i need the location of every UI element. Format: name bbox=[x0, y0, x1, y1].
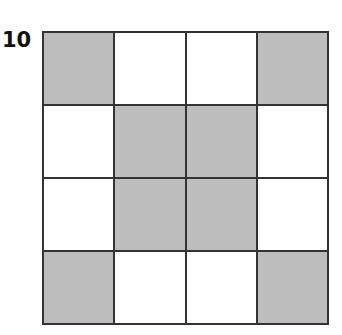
empty-cell-r3-c2 bbox=[186, 251, 257, 324]
empty-cell-r2-c3 bbox=[257, 178, 328, 251]
shaded-grid bbox=[42, 31, 329, 325]
shaded-cell-r1-c2 bbox=[186, 105, 257, 178]
empty-cell-r0-c2 bbox=[186, 32, 257, 105]
shaded-cell-r2-c1 bbox=[114, 178, 185, 251]
shaded-cell-r1-c1 bbox=[114, 105, 185, 178]
figure-label: 10 bbox=[2, 28, 31, 52]
empty-cell-r2-c0 bbox=[43, 178, 114, 251]
empty-cell-r3-c1 bbox=[114, 251, 185, 324]
empty-cell-r0-c1 bbox=[114, 32, 185, 105]
empty-cell-r1-c3 bbox=[257, 105, 328, 178]
shaded-cell-r3-c3 bbox=[257, 251, 328, 324]
shaded-cell-r2-c2 bbox=[186, 178, 257, 251]
shaded-cell-r0-c0 bbox=[43, 32, 114, 105]
shaded-cell-r0-c3 bbox=[257, 32, 328, 105]
shaded-cell-r3-c0 bbox=[43, 251, 114, 324]
empty-cell-r1-c0 bbox=[43, 105, 114, 178]
